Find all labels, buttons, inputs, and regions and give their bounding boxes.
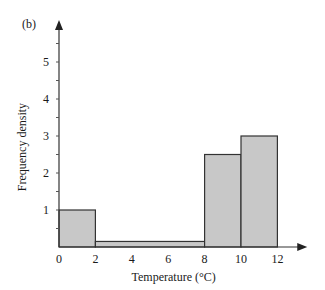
x-tick-label: 10: [235, 252, 247, 266]
histogram-bar: [95, 241, 204, 247]
x-tick-label: 8: [202, 252, 208, 266]
x-tick-label: 4: [129, 252, 135, 266]
panel-label: (b): [22, 17, 36, 31]
x-tick-label: 2: [92, 252, 98, 266]
x-tick-label: 0: [56, 252, 62, 266]
histogram-bar: [59, 210, 95, 247]
x-tick-label: 12: [271, 252, 283, 266]
y-axis-arrow-icon: [55, 20, 63, 30]
y-tick-label: 2: [43, 166, 49, 180]
x-tick-label: 6: [165, 252, 171, 266]
histogram-chart: 12345024681012Temperature (°C)Frequency …: [0, 0, 325, 290]
histogram-bar: [241, 136, 277, 247]
y-tick-label: 5: [43, 55, 49, 69]
y-tick-label: 1: [43, 203, 49, 217]
y-axis-label: Frequency density: [15, 103, 29, 191]
y-tick-label: 3: [43, 129, 49, 143]
x-axis-arrow-icon: [297, 243, 307, 251]
histogram-bar: [205, 155, 241, 248]
y-tick-label: 4: [43, 92, 49, 106]
x-axis-label: Temperature (°C): [132, 270, 216, 284]
